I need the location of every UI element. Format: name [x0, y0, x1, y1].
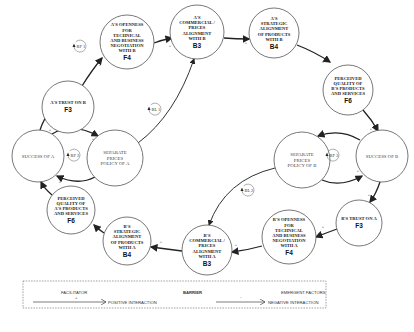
loop-rf1: RF 1 — [73, 40, 86, 52]
node-factor-code: F4 — [285, 249, 293, 256]
edge-polarity-sign: + — [245, 40, 248, 45]
node-factor-code: B3 — [193, 42, 202, 49]
edge-separate-prices-a-to-success-of-a: + — [57, 176, 95, 184]
legend-negative-sign: - — [240, 294, 242, 299]
edge-b-openness-to-b-commercial-alignment: + — [232, 242, 262, 252]
node-factor-code: B4 — [123, 251, 132, 258]
causal-loop-diagram: ++++++++++++++++-- A'S TRUST ON BF3A'S O… — [0, 0, 414, 332]
edge-b-commercial-alignment-to-b-strategic-alignment: + — [151, 239, 182, 251]
node-separate-prices-a: SEPARATEPRICESPOLICY OF A — [87, 130, 143, 186]
node-b-openness: B'S OPENNESSFORTECHNICALAND BUSINESSNEGO… — [262, 210, 316, 264]
node-label-line: WITH A — [198, 254, 216, 259]
legend-negative-label: NEGATIVE INTERACTION — [268, 300, 318, 305]
node-b-trust-on-a: B'S TRUST ON AF3 — [336, 200, 382, 246]
node-label-line: WITH B — [118, 48, 135, 53]
edge-b-trust-on-a-to-b-openness: + — [316, 224, 337, 237]
node-label-line: PRICES — [107, 156, 124, 161]
node-label-line: SEPARATE — [290, 152, 313, 157]
node-success-of-b: SUCCESS OF B — [356, 130, 408, 182]
node-label-line: WITH A — [280, 243, 298, 248]
edge-arrow — [41, 182, 52, 195]
node-factor-code: B4 — [270, 43, 279, 50]
edge-arrow — [318, 133, 360, 140]
node-b-strategic-alignment: B'SSTRATEGICALIGNMENTOF PRODUCTSWITH AB4 — [103, 217, 151, 265]
loop-arrowhead-icon — [148, 107, 151, 111]
node-label-line: SUCCESS OF B — [366, 154, 399, 159]
loop-label: RF 1 — [77, 44, 86, 49]
node-label-line: AND SERVICES — [331, 91, 365, 96]
node-label-line: SUCCESS OF A — [22, 154, 55, 159]
edge-arrow — [209, 168, 275, 225]
node-success-of-a: SUCCESS OF A — [12, 130, 64, 182]
edge-arrow — [224, 38, 249, 39]
edge-arrow — [316, 229, 337, 237]
node-factor-code: F3 — [355, 222, 363, 229]
node-label-line: AND SERVICES — [54, 211, 88, 216]
edge-b-strategic-alignment-to-perceived-quality-a: + — [94, 223, 104, 233]
edge-polarity-sign: + — [59, 179, 62, 184]
loop-arrowhead-icon — [73, 44, 76, 48]
edge-arrow — [370, 182, 380, 202]
edge-polarity-sign: + — [322, 59, 325, 64]
node-label-line: POLICY OF A — [101, 161, 130, 166]
loop-label: BL 2 — [245, 188, 254, 193]
node-factor-code: F4 — [123, 54, 131, 61]
loop-arrowhead-icon — [241, 188, 244, 192]
edge-polarity-sign: + — [235, 242, 238, 247]
loop-bl2: BL 2 — [241, 184, 254, 196]
node-label-line: PRICES — [294, 158, 311, 163]
legend: FACILITATOR BARRIER EMERGENT FACTORS + P… — [23, 281, 326, 308]
node-a-strategic-alignment: A'SSTRATEGICALIGNMENTOF PRODUCTSWITH BB4 — [249, 8, 299, 58]
node-label-line: WITH B — [265, 37, 282, 42]
edge-separate-prices-b-to-b-commercial-alignment: - — [209, 168, 275, 225]
edge-polarity-sign: + — [99, 62, 102, 67]
node-label-line: POLICY OF B — [288, 163, 317, 168]
node-factor-code: F3 — [64, 106, 72, 113]
node-label-line: A'S TRUST ON B — [50, 100, 86, 105]
edge-a-openness-to-a-commercial-alignment: + — [154, 38, 172, 48]
edge-separate-prices-a-to-a-commercial-alignment: - — [138, 59, 194, 143]
edge-polarity-sign: + — [322, 224, 325, 229]
edge-arrow — [138, 59, 194, 143]
edge-polarity-sign: + — [368, 192, 371, 197]
nodes-layer: A'S TRUST ON BF3A'S OPENNESSFORTECHNICAL… — [12, 5, 408, 275]
edge-polarity-sign: + — [160, 239, 163, 244]
edge-a-strategic-alignment-to-perceived-quality-b: + — [297, 45, 330, 64]
node-label-line: WITH A — [118, 245, 136, 250]
loop-label: RF 3 — [330, 153, 339, 158]
edge-success-of-b-to-b-trust-on-a: + — [368, 182, 380, 202]
edge-polarity-sign: + — [370, 126, 373, 131]
loop-arrowhead-icon — [67, 153, 70, 157]
legend-positive-sign: + — [75, 295, 78, 300]
loop-label: RF 2 — [71, 153, 80, 158]
node-perceived-quality-b: PERCEIVEDQUALITY OFB'S PRODUCTSAND SERVI… — [323, 65, 373, 115]
loop-rf2: RF 2 — [67, 149, 80, 161]
edge-polarity-sign: + — [169, 43, 172, 48]
node-a-openness: A'S OPENNESSFORTECHNICALAND BUSINESSNEGO… — [100, 15, 154, 69]
edge-polarity-sign: + — [99, 223, 102, 228]
edge-arrow — [322, 176, 362, 183]
edge-perceived-quality-b-to-success-of-b: + — [363, 110, 378, 131]
legend-barrier-label: BARRIER — [183, 290, 202, 295]
node-a-commercial-alignment: A'SCOMMERCIAL /PRICESALIGNMENTWITH BB3 — [170, 5, 224, 59]
edge-a-commercial-alignment-to-a-strategic-alignment: + — [224, 38, 249, 45]
edge-arrow — [297, 45, 330, 62]
node-factor-code: F6 — [67, 217, 75, 224]
legend-emergent-label: EMERGENT FACTORS — [281, 290, 326, 295]
node-factor-code: F6 — [344, 97, 352, 104]
node-label-line: B'S TRUST ON A — [341, 216, 377, 221]
node-label-line: WITH B — [188, 36, 205, 41]
node-b-commercial-alignment: B'SCOMMERCIAL /PRICESALIGNMENTWITH AB3 — [182, 225, 232, 275]
node-label-line: SEPARATE — [103, 150, 126, 155]
node-perceived-quality-a: PERCEIVEDQUALITY OFA'S PRODUCTSAND SERVI… — [47, 186, 95, 234]
edge-arrow — [57, 176, 95, 181]
edge-a-trust-on-b-to-a-openness: + — [82, 58, 102, 86]
loop-bl1: BL 1 — [148, 103, 161, 115]
node-a-trust-on-b: A'S TRUST ON BF3 — [42, 81, 94, 133]
node-separate-prices-b: SEPARATEPRICESPOLICY OF B — [274, 132, 330, 188]
edge-arrow — [151, 247, 182, 251]
edge-polarity-sign: + — [49, 127, 52, 132]
loop-label: BL 1 — [152, 107, 161, 112]
legend-positive-label: POSITIVE INTERACTION — [108, 300, 157, 305]
node-factor-code: B3 — [203, 260, 212, 267]
